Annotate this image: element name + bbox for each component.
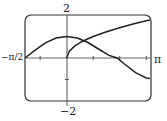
x-min-label: −π/2: [1, 53, 23, 62]
y-max-label: 2: [63, 3, 70, 14]
y-min-label: −2: [60, 106, 76, 117]
curve-1-line: [25, 37, 150, 79]
chart-canvas: [0, 0, 167, 121]
x-max-label: π: [154, 54, 161, 65]
